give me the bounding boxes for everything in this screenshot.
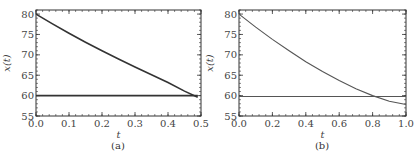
y-tick-label: 65: [224, 70, 237, 81]
y-tick-label: 80: [21, 9, 34, 20]
panel-b: 0.00.20.40.60.81.0556065707580tx(t)(b): [204, 9, 414, 151]
y-tick-label: 70: [21, 49, 34, 60]
x-axis-label: t: [116, 129, 121, 140]
x-axis-label: t: [320, 129, 325, 140]
y-tick-label: 65: [21, 70, 34, 81]
y-tick-label: 80: [224, 9, 237, 20]
x-tick-label: 0.2: [264, 118, 280, 129]
panel-caption: (a): [111, 140, 125, 151]
y-tick-label: 70: [224, 49, 237, 60]
series-line-x-t-: [36, 14, 198, 97]
x-tick-label: 0.3: [127, 118, 143, 129]
y-tick-label: 75: [224, 29, 237, 40]
panel-caption: (b): [315, 140, 329, 151]
x-tick-label: 0.5: [193, 118, 209, 129]
y-tick-label: 75: [21, 29, 34, 40]
x-tick-label: 1.0: [398, 118, 414, 129]
series-line-x-t-: [239, 14, 406, 105]
y-tick-label: 60: [224, 90, 237, 101]
plot-frame: [239, 10, 406, 116]
x-tick-label: 0.1: [61, 118, 77, 129]
x-tick-label: 0.4: [160, 118, 176, 129]
x-tick-label: 0.2: [94, 118, 110, 129]
figure: 0.00.10.20.30.40.5556065707580tx(t)(a) 0…: [0, 0, 414, 160]
y-axis-label: x(t): [204, 54, 215, 72]
x-tick-label: 0.4: [298, 118, 314, 129]
y-tick-label: 55: [21, 111, 34, 122]
y-tick-label: 60: [21, 90, 34, 101]
plot-frame: [36, 10, 201, 116]
y-axis-label: x(t): [1, 54, 12, 72]
x-tick-label: 0.6: [331, 118, 347, 129]
y-tick-label: 55: [224, 111, 237, 122]
x-tick-label: 0.8: [365, 118, 381, 129]
panel-a: 0.00.10.20.30.40.5556065707580tx(t)(a): [1, 9, 209, 151]
